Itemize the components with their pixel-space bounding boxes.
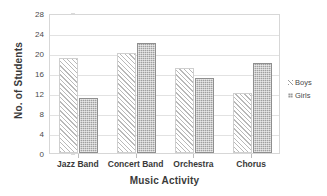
- y-axis-title: No. of Students: [13, 16, 24, 146]
- y-axis-tick-labels: 0481216202428: [26, 14, 44, 154]
- plot-area: [49, 14, 280, 154]
- bar-girls-chorus: [253, 63, 272, 153]
- bar-chart: No. of Students 0481216202428 Jazz BandC…: [0, 0, 327, 196]
- legend-label: Girls: [295, 91, 310, 100]
- bar-boys-concert-band: [117, 53, 136, 153]
- y-tick-label: 8: [40, 110, 44, 119]
- bar-boys-orchestra: [175, 68, 194, 153]
- x-tick-label: Chorus: [236, 159, 266, 169]
- bar-group: [223, 15, 281, 153]
- bar-boys-chorus: [233, 93, 252, 153]
- x-axis-title: Music Activity: [49, 175, 280, 186]
- bar-boys-jazz-band: [59, 58, 78, 153]
- y-tick-label: 4: [40, 130, 44, 139]
- legend-item-boys[interactable]: Boys: [288, 76, 327, 89]
- legend: BoysGirls: [288, 76, 327, 102]
- x-tick-label: Concert Band: [108, 159, 164, 169]
- y-tick-label: 16: [35, 70, 44, 79]
- y-tick-label: 20: [35, 50, 44, 59]
- bar-girls-orchestra: [195, 78, 214, 153]
- bar-group: [166, 15, 224, 153]
- bar-girls-concert-band: [137, 43, 156, 153]
- legend-item-girls[interactable]: Girls: [288, 89, 327, 102]
- x-tick-mark: [251, 154, 252, 158]
- x-axis-tick-marks: [49, 154, 280, 158]
- x-tick-label: Orchestra: [173, 159, 213, 169]
- bar-girls-jazz-band: [79, 98, 98, 153]
- y-tick-label: 28: [35, 10, 44, 19]
- bars-layer: [50, 15, 279, 153]
- y-tick-label: 24: [35, 30, 44, 39]
- x-tick-mark: [193, 154, 194, 158]
- y-tick-label: 12: [35, 90, 44, 99]
- x-tick-mark: [136, 154, 137, 158]
- legend-swatch-girls-icon: [288, 93, 293, 98]
- bar-group: [108, 15, 166, 153]
- legend-label: Boys: [295, 78, 312, 87]
- bar-group: [50, 15, 108, 153]
- x-tick-label: Jazz Band: [57, 159, 99, 169]
- x-tick-mark: [78, 154, 79, 158]
- legend-swatch-boys-icon: [288, 80, 293, 85]
- y-tick-label: 0: [40, 150, 44, 159]
- x-axis-tick-labels: Jazz BandConcert BandOrchestraChorus: [49, 159, 280, 173]
